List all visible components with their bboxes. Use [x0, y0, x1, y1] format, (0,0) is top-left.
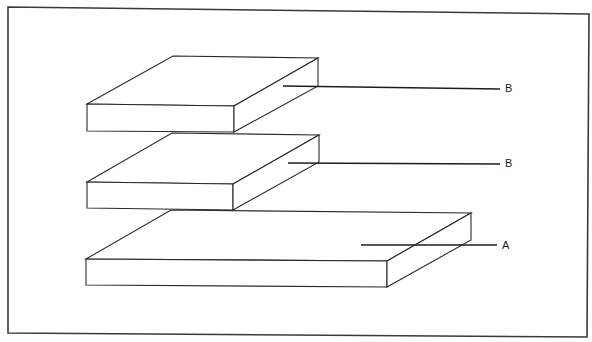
- slab-top: [87, 56, 318, 132]
- slab-bottom-front-face: [86, 259, 387, 287]
- leader-line-middle-b: [288, 163, 500, 164]
- slab-middle: [87, 133, 319, 210]
- slab-stack-diagram: [0, 0, 592, 342]
- label-middle-slab: B: [505, 158, 512, 169]
- label-bottom-slab: A: [502, 240, 509, 251]
- label-top-slab: B: [505, 83, 512, 94]
- slab-top-front-face: [87, 104, 234, 132]
- slab-bottom: [86, 210, 471, 287]
- slab-middle-front-face: [87, 182, 233, 210]
